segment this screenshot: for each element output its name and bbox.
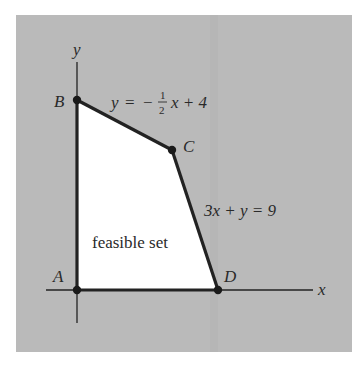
feasible-set-diagram: y x A B C D y = − 1 2 x + 4 3x + y = 9 f… [0,0,362,367]
eq1-lhs: y [109,93,119,112]
x-axis-label: x [317,280,326,299]
vertex-C-label: C [183,137,195,156]
eq1-frac-num: 1 [160,89,166,101]
vertex-B-label: B [54,92,65,111]
eq1-rest: x + 4 [170,93,208,112]
eq1-frac-den: 2 [159,104,165,116]
eq1-equals: = [125,93,135,112]
eq1-minus: − [143,93,153,112]
vertex-D-label: D [223,267,237,286]
vertex-A-dot [73,286,81,294]
vertex-B-dot [73,96,81,104]
vertex-A-label: A [52,267,64,286]
y-axis-label: y [71,40,81,59]
feasible-set-label: feasible set [92,233,168,252]
background-band [210,15,218,352]
vertex-C-dot [168,146,176,154]
constraint-label-2: 3x + y = 9 [203,201,277,220]
vertex-D-dot [214,286,222,294]
